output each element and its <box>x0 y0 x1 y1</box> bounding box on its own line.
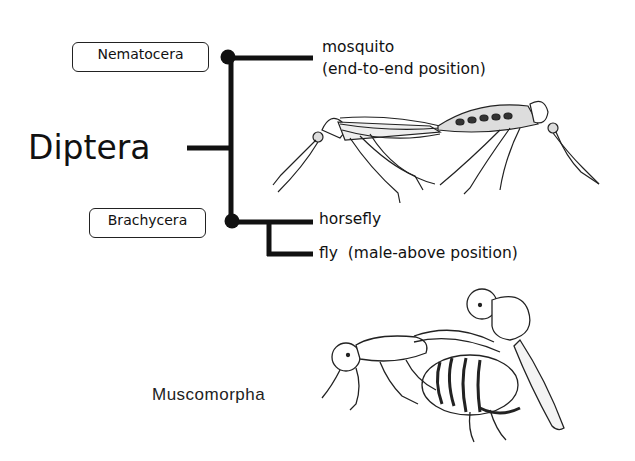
fly-illustration <box>322 289 564 442</box>
group-box-brachycera: Brachycera <box>89 208 206 238</box>
label-fly: fly (male-above position) <box>319 244 518 262</box>
label-horsefly: horsefly <box>319 210 381 228</box>
label-mosquito-note: (end-to-end position) <box>322 60 486 78</box>
label-muscomorpha: Muscomorpha <box>152 385 265 405</box>
order-title: Diptera <box>28 128 151 167</box>
label-mosquito: mosquito <box>322 38 394 56</box>
group-box-nematocera: Nematocera <box>72 42 209 72</box>
mosquito-illustration <box>273 101 599 203</box>
